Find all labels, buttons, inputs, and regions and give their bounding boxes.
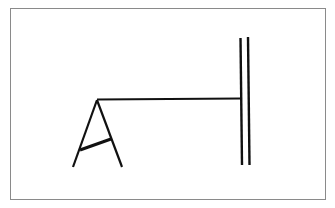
a-frame-right-leg <box>97 100 122 167</box>
a-frame-crossbar <box>80 139 111 150</box>
a-frame-left-leg <box>73 100 97 167</box>
double-bar-left <box>241 38 243 165</box>
diagram-canvas <box>0 0 335 208</box>
horizontal-connector-line <box>97 99 241 100</box>
double-bar-right <box>248 37 250 165</box>
